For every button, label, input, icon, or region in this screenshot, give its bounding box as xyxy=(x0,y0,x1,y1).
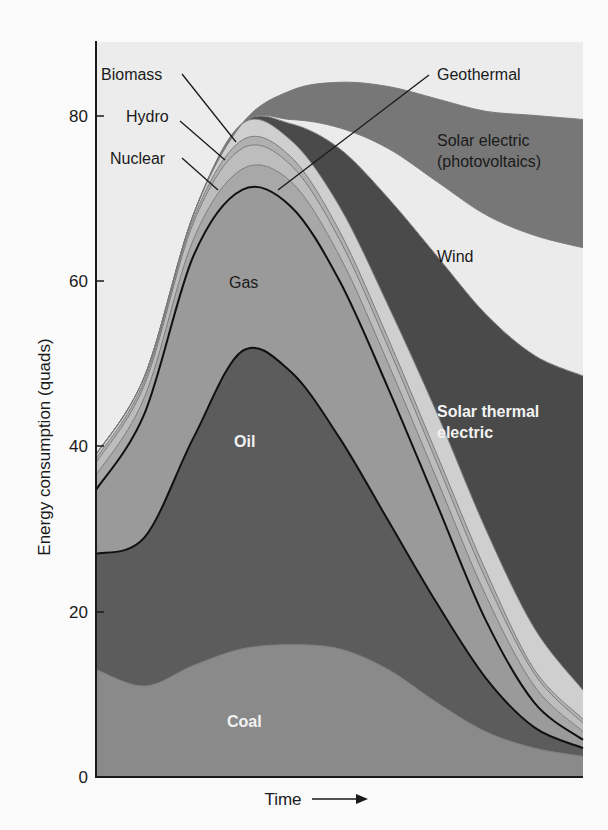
label-solar-pv-line1: Solar electric xyxy=(437,132,529,149)
y-tick-label-0: 0 xyxy=(79,768,88,787)
y-tick-label-60: 60 xyxy=(69,272,88,291)
stacked-area-chart: 0 20 40 60 80 Energy consumption (quads)… xyxy=(0,0,608,830)
label-gas: Gas xyxy=(229,274,258,291)
y-tick-label-20: 20 xyxy=(69,603,88,622)
label-nuclear: Nuclear xyxy=(110,150,166,167)
label-solar-thermal-line1: Solar thermal xyxy=(437,403,539,420)
y-tick-label-80: 80 xyxy=(69,107,88,126)
label-solar-pv-line2: (photovoltaics) xyxy=(437,153,541,170)
label-solar-thermal-line2: electric xyxy=(437,424,493,441)
label-coal: Coal xyxy=(227,713,262,730)
y-tick-label-40: 40 xyxy=(69,437,88,456)
label-hydro: Hydro xyxy=(126,108,169,125)
label-geothermal: Geothermal xyxy=(437,66,521,83)
y-axis-label: Energy consumption (quads) xyxy=(35,338,54,555)
x-axis-arrow-icon xyxy=(312,794,368,804)
label-wind: Wind xyxy=(437,248,473,265)
label-biomass: Biomass xyxy=(101,66,162,83)
x-axis-label: Time xyxy=(264,790,301,809)
label-oil: Oil xyxy=(234,433,255,450)
